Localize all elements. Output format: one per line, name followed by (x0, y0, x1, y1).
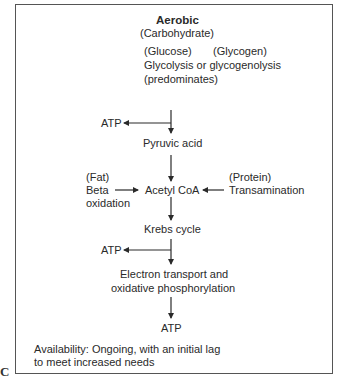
flow-arrows (0, 0, 341, 382)
